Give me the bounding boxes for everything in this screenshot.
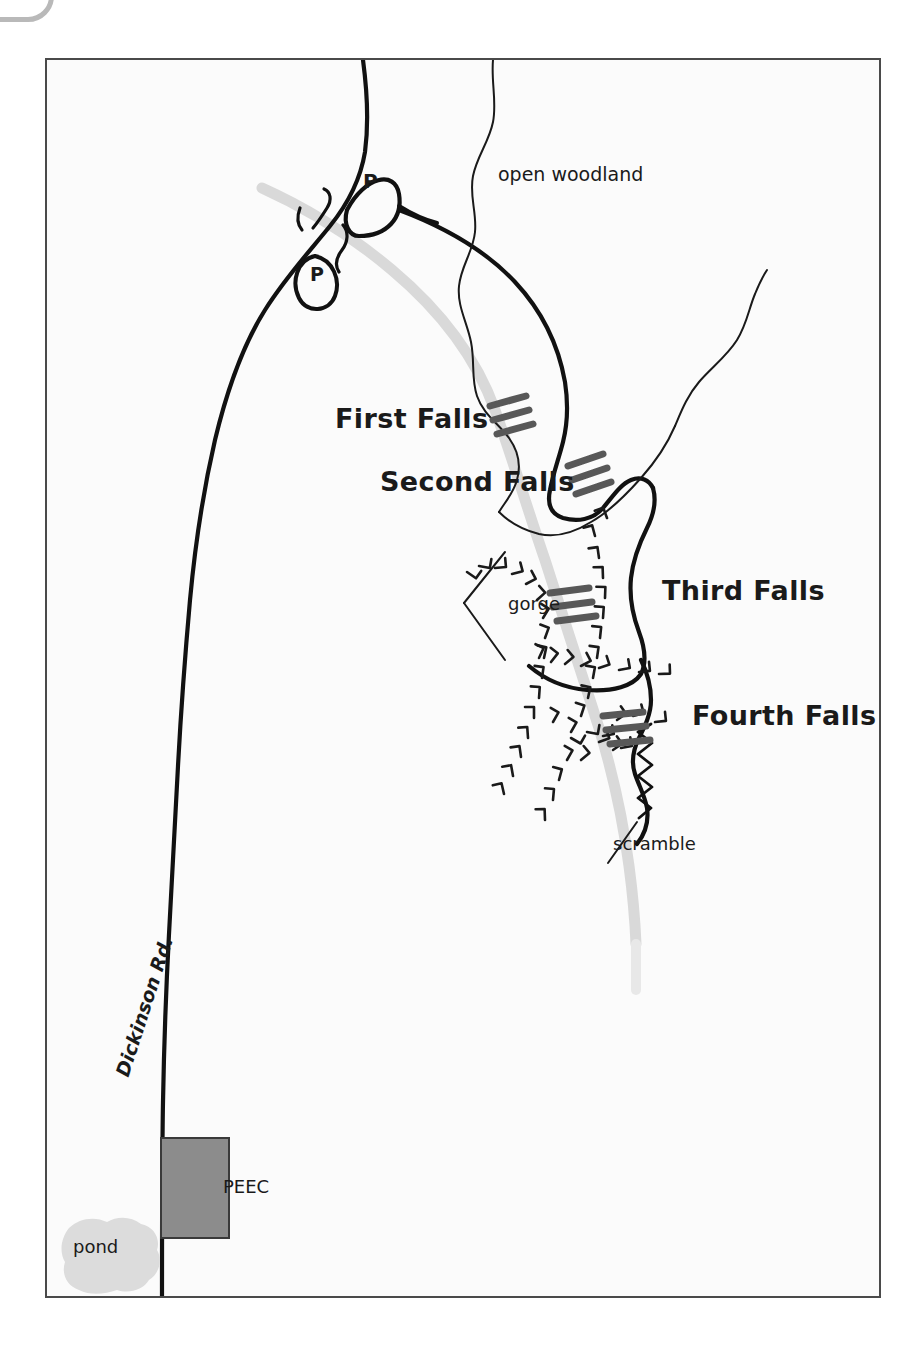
gorge-hachures-east-throat [531,644,670,674]
label-scramble: scramble [613,835,696,853]
label-third-falls: Third Falls [662,577,825,604]
label-gorge: gorge [508,595,560,613]
label-open-woodland: open woodland [498,165,643,184]
partial-logo-mark [0,0,54,22]
label-peec: PEEC [223,1178,269,1196]
label-fourth-falls: Fourth Falls [692,702,876,729]
parking-marker-north-label: P [363,171,378,191]
woodland-trails [459,60,767,535]
label-pond: pond [73,1238,118,1256]
label-second-falls: Second Falls [380,468,575,495]
map-page: open woodland First Falls Second Falls T… [0,0,919,1359]
parking-marker-south-label: P [310,265,324,284]
map-frame: open woodland First Falls Second Falls T… [45,58,881,1298]
peec-building-shape [161,1138,229,1238]
label-first-falls: First Falls [335,405,488,432]
map-canvas [47,60,879,1296]
dickinson-road-path [162,60,367,1296]
parking-spur [399,206,437,223]
